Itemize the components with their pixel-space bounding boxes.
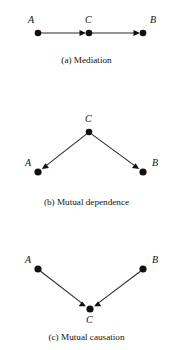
node-dot-a [35, 30, 42, 37]
node-label-a: A [28, 15, 34, 25]
panel-caption-a: (a) Mediation [0, 55, 173, 66]
arrowhead-a-to-c-collider [79, 302, 86, 307]
arrowhead-b-to-c-collider [94, 302, 101, 307]
node-label-b: B [152, 255, 158, 265]
edge-c-to-a [44, 134, 87, 168]
panel-mediation: A C B (a) Mediation [0, 0, 173, 100]
node-dot-b [139, 168, 146, 175]
node-dot-c [86, 129, 93, 136]
node-dot-a [34, 265, 41, 272]
node-label-c: C [86, 315, 93, 325]
node-label-c: C [85, 114, 92, 124]
node-dot-c [86, 305, 93, 312]
node-dot-b [139, 265, 146, 272]
panel-mutual-dependence: C A B (b) Mutual dependence [0, 100, 173, 230]
node-label-b: B [152, 158, 158, 168]
node-label-b: B [150, 15, 156, 25]
panel-mutual-causation: A B C (c) Mutual causation [0, 230, 173, 350]
edge-c-to-b-fork [92, 134, 138, 168]
node-label-a: A [25, 255, 31, 265]
node-dot-a [34, 168, 41, 175]
arrowhead-c-to-b [134, 30, 141, 36]
node-dot-c [86, 30, 93, 37]
node-label-a: A [25, 158, 31, 168]
panel-caption-b: (b) Mutual dependence [0, 197, 173, 208]
edge-a-to-c-collider [41, 272, 84, 305]
node-label-c: C [85, 15, 92, 25]
causal-diagram-figure: A C B (a) Mediation C A B (b) Mutual dep… [0, 0, 173, 350]
panel-caption-c: (c) Mutual causation [0, 332, 173, 343]
node-dot-b [140, 30, 147, 37]
arrowhead-a-to-c [80, 30, 87, 36]
edge-b-to-c-collider [96, 272, 140, 305]
